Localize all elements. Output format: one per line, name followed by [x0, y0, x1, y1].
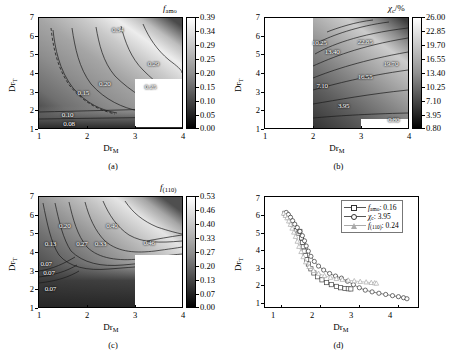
panel-b-contour-label-1970: 19.70 — [383, 60, 398, 68]
legend-item-famo: famo: 0.16 — [344, 203, 399, 212]
panel-b-xtick-3: 3 — [353, 131, 369, 141]
panel-b-contour-label-1655: 16.55 — [358, 73, 373, 81]
legend-label-f110: f(110): 0.24 — [368, 221, 399, 230]
panel-c-cbar-tick-053: 0.53 — [200, 192, 215, 201]
panel-b-xtickmark-3 — [361, 126, 362, 129]
panel-d-ytick-6: 6 — [246, 210, 260, 220]
panel-b-contour-label-710: 7.10 — [316, 82, 327, 90]
panel-b-cbar-tick-080: 0.80 — [426, 124, 441, 133]
panel-a-plot-area: 0.34 0.29 0.25 0.20 0.15 0.10 0.08 — [38, 17, 183, 129]
panel-c-cbar-tick-007: 0.07 — [200, 290, 215, 299]
panel-b-colorbar-labels: 26.00 22.85 19.70 16.55 13.40 10.25 7.10… — [426, 17, 451, 129]
panel-d-caption: (d) — [226, 340, 451, 350]
panel-a-contour-label-015: 0.15 — [78, 89, 89, 97]
panel-c-xtick-2: 2 — [79, 310, 95, 320]
panel-b-contour-label-1025: 10.25 — [312, 39, 327, 47]
panel-c-ytickmark-6 — [35, 215, 38, 216]
panel-b-ytickmark-3 — [261, 92, 264, 93]
panel-a-colorbar-ticks — [196, 17, 199, 129]
panel-b-xtick-4: 4 — [401, 131, 417, 141]
panel-c-contour-label-046: 0.46 — [143, 239, 154, 247]
panel-a-ytick-2: 2 — [20, 105, 34, 115]
panel-d-ytick-2: 2 — [246, 280, 260, 290]
panel-a-cbar-tick-000: 0.00 — [200, 124, 215, 133]
panel-b-x-axis-label: DrM — [294, 143, 380, 154]
panel-c-xtick-1: 1 — [31, 310, 47, 320]
panel-a-contour-label-010: 0.10 — [62, 111, 73, 119]
panel-c-xtickmark-2 — [87, 305, 88, 308]
panel-c-cbar-tick-000: 0.00 — [200, 303, 215, 312]
panel-d-ytickmark-6 — [261, 215, 264, 216]
panel-c-ytickmark-2 — [35, 289, 38, 290]
figure-root: famo — [0, 0, 451, 358]
panel-a-contour-label-020: 0.20 — [99, 80, 110, 88]
panel-c-contour-label-007-a: 0.07 — [40, 260, 51, 268]
panel-b-xtick-1: 1 — [257, 131, 273, 141]
panel-c-ytickmark-4 — [35, 252, 38, 253]
panel-d-ytick-4: 4 — [246, 245, 260, 255]
panel-c-plot-area: 0.46 0.40 0.33 0.27 0.20 0.13 0.07 0.07 … — [38, 196, 183, 308]
panel-c-cbar-tick-013: 0.13 — [200, 276, 215, 285]
panel-c-x-axis-label: DrM — [68, 322, 154, 333]
panel-c-contour-label-007-b: 0.07 — [43, 269, 54, 277]
panel-c-cbar-tick-027: 0.27 — [200, 248, 215, 257]
panel-d-ytickmark-4 — [261, 250, 264, 251]
panel-c-missing-data-region — [135, 255, 182, 307]
panel-b-ytick-5: 5 — [246, 49, 260, 59]
panel-b-cbar-tick-395: 3.95 — [426, 111, 441, 120]
panel-a-cbar-tick-015: 0.15 — [200, 83, 215, 92]
panel-d-y-axis-label: DrT — [233, 258, 244, 271]
legend-item-chic: χc: 3.95 — [344, 212, 399, 221]
panel-b-cbar-tick-1970: 19.70 — [426, 41, 445, 50]
panel-b-contour-label-395: 3.95 — [338, 102, 349, 110]
panel-a-cbar-tick-025: 0.25 — [200, 55, 215, 64]
panel-a-missing-data-region — [135, 79, 182, 127]
panel-d-xtickmark-2 — [320, 305, 321, 308]
panel-b-cbar-tick-2285: 22.85 — [426, 27, 445, 36]
panel-a-contour-label-008: 0.08 — [63, 120, 74, 128]
panel-b-ytick-6: 6 — [246, 31, 260, 41]
panel-d-ytick-3: 3 — [246, 263, 260, 273]
panel-b-contour-label-2285: 22.85 — [358, 38, 373, 46]
panel-b-colorbar-title: χc/% — [388, 3, 405, 14]
panel-b-cbar-tick-1655: 16.55 — [426, 55, 445, 64]
panel-a-contour-label-025: 0.25 — [145, 83, 156, 91]
panel-c-ytick-5: 5 — [20, 228, 34, 238]
panel-c-ytick-4: 4 — [20, 247, 34, 257]
panel-d-xtickmark-4 — [398, 305, 399, 308]
panel-d-xtick-4: 4 — [382, 310, 398, 320]
panel-a-y-axis-label: DrT — [7, 79, 18, 92]
panel-c-ytickmark-3 — [35, 271, 38, 272]
panel-b-cbar-tick-2600: 26.00 — [426, 13, 445, 22]
panel-d-ytick-5: 5 — [246, 228, 260, 238]
panel-c-caption: (c) — [0, 340, 226, 350]
panel-d-ytick-1: 1 — [246, 298, 260, 308]
panel-a-xtick-3: 3 — [127, 131, 143, 141]
panel-a-cbar-tick-039: 0.39 — [200, 13, 215, 22]
panel-c-cbar-tick-046: 0.46 — [200, 206, 215, 215]
panel-c-ytick-3: 3 — [20, 266, 34, 276]
panel-a-colorbar-title: famo — [163, 3, 177, 14]
panel-d-xtick-2: 2 — [304, 310, 320, 320]
panel-a-ytickmark-1 — [35, 129, 38, 130]
panel-a-contour-label-029: 0.29 — [148, 60, 159, 68]
panel-b-ytickmark-6 — [261, 36, 264, 37]
panel-c-colorbar — [186, 196, 196, 308]
panel-d-xtick-3: 3 — [343, 310, 359, 320]
panel-c-xtick-3: 3 — [127, 310, 143, 320]
panel-a-cbar-tick-029: 0.29 — [200, 41, 215, 50]
panel-c-contour-label-013: 0.13 — [45, 240, 56, 248]
panel-d-ytickmark-5 — [261, 233, 264, 234]
panel-b-cbar-tick-1025: 10.25 — [426, 83, 445, 92]
panel-c-ytickmark-5 — [35, 233, 38, 234]
panel-a-ytick-7: 7 — [20, 12, 34, 22]
panel-a-cbar-tick-034: 0.34 — [200, 27, 215, 36]
panel-b-caption: (b) — [226, 161, 451, 171]
panel-c-cbar-tick-040: 0.40 — [200, 220, 215, 229]
panel-b-ytickmark-1 — [261, 129, 264, 130]
panel-c-ytick-6: 6 — [20, 210, 34, 220]
legend-marker-circle — [344, 212, 366, 221]
panel-c-colorbar-labels: 0.53 0.46 0.40 0.33 0.27 0.20 0.13 0.07 … — [200, 196, 226, 308]
panel-a-contour-label-034: 0.34 — [112, 26, 123, 34]
panel-b-ytick-2: 2 — [246, 105, 260, 115]
